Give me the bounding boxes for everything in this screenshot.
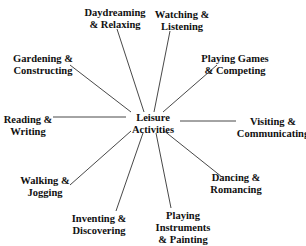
node-watching-listening: Watching & Listening: [155, 9, 210, 33]
node-label-line: Playing: [156, 210, 211, 222]
node-label-line: Jogging: [20, 187, 69, 199]
connector-line-walking: [70, 131, 131, 185]
node-label-line: Dancing &: [210, 172, 261, 184]
node-label-line: Instruments: [156, 222, 211, 234]
node-label-line: Writing: [4, 126, 53, 138]
node-walking-jogging: Walking & Jogging: [20, 175, 69, 199]
node-daydreaming-relaxing: Daydreaming & Relaxing: [84, 7, 145, 31]
leisure-activities-diagram: Leisure Activities Daydreaming & Relaxin…: [0, 0, 306, 246]
node-label-line: Reading &: [4, 114, 53, 126]
node-label-line: & Relaxing: [84, 19, 145, 31]
center-label-line-2: Activities: [132, 124, 174, 136]
connector-line-daydreaming: [117, 29, 144, 112]
node-label-line: & Painting: [156, 234, 211, 246]
node-visiting-communicating: Visiting & Communicating: [237, 116, 306, 140]
node-label-line: Discovering: [72, 225, 127, 237]
center-label-line-1: Leisure: [132, 112, 174, 124]
node-label-line: Romancing: [210, 184, 261, 196]
node-label-line: Inventing &: [72, 213, 127, 225]
node-label-line: Gardening &: [13, 53, 73, 65]
node-reading-writing: Reading & Writing: [4, 114, 53, 138]
node-label-line: Communicating: [237, 128, 306, 140]
connector-line-watching: [154, 31, 170, 112]
center-node: Leisure Activities: [132, 112, 174, 136]
node-label-line: Daydreaming: [84, 7, 145, 19]
node-label-line: Playing Games: [201, 53, 268, 65]
node-label-line: Watching &: [155, 9, 210, 21]
node-label-line: Listening: [155, 21, 210, 33]
connector-line-playing-instruments: [156, 133, 171, 208]
node-label-line: Visiting &: [237, 116, 306, 128]
node-playing-games-competing: Playing Games & Competing: [201, 53, 268, 77]
node-inventing-discovering: Inventing & Discovering: [72, 213, 127, 237]
node-label-line: Constructing: [13, 65, 73, 77]
node-playing-instruments-painting: Playing Instruments & Painting: [156, 210, 211, 246]
node-label-line: & Competing: [201, 65, 268, 77]
connector-line-dancing: [163, 130, 222, 177]
node-dancing-romancing: Dancing & Romancing: [210, 172, 261, 196]
connector-line-inventing: [116, 133, 143, 211]
node-gardening-constructing: Gardening & Constructing: [13, 53, 73, 77]
node-label-line: Walking &: [20, 175, 69, 187]
connector-line-gardening: [70, 65, 131, 112]
